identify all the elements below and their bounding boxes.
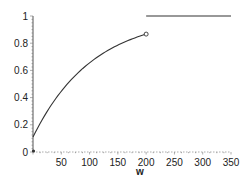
- plot-series: [32, 16, 231, 153]
- x-tick-label: 100: [81, 157, 98, 168]
- open-circle-marker: [144, 32, 148, 36]
- x-tick-label: 50: [56, 157, 68, 168]
- y-tick-label: 0.4: [14, 92, 28, 103]
- y-axis: 00.20.40.60.81: [14, 11, 33, 158]
- y-tick-label: 1: [22, 11, 28, 22]
- x-axis-label: w: [135, 166, 144, 177]
- y-tick-label: 0: [22, 147, 28, 158]
- x-tick-label: 250: [166, 157, 183, 168]
- y-tick-label: 0.6: [14, 65, 28, 76]
- piecewise-function-chart: 00.20.40.60.81 50100150200250300350 w: [0, 0, 250, 179]
- x-tick-label: 300: [194, 157, 211, 168]
- origin-dot: [32, 149, 35, 152]
- x-tick-label: 350: [223, 157, 240, 168]
- x-tick-label: 150: [110, 157, 127, 168]
- curve-segment: [33, 34, 146, 137]
- y-tick-label: 0.8: [14, 38, 28, 49]
- y-tick-label: 0.2: [14, 119, 28, 130]
